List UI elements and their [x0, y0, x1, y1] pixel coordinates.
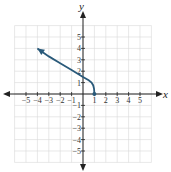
svg-text:−2: −2 — [56, 96, 65, 105]
graph: −5−4−3−2−112345−5−4−3−2−112345 x y — [0, 0, 171, 172]
svg-text:−2: −2 — [72, 113, 81, 122]
x-axis-label: x — [162, 88, 168, 100]
svg-text:1: 1 — [77, 79, 81, 88]
axes — [3, 11, 163, 171]
svg-text:−4: −4 — [33, 96, 42, 105]
svg-text:4: 4 — [77, 44, 81, 53]
start-point — [92, 92, 96, 96]
svg-text:−1: −1 — [72, 101, 81, 110]
svg-text:4: 4 — [127, 96, 131, 105]
svg-text:5: 5 — [138, 96, 142, 105]
svg-text:1: 1 — [92, 96, 96, 105]
svg-text:−5: −5 — [72, 147, 81, 156]
svg-text:5: 5 — [77, 33, 81, 42]
svg-text:3: 3 — [115, 96, 119, 105]
curve-arrow-icon — [37, 48, 45, 55]
svg-text:2: 2 — [104, 96, 108, 105]
y-axis-label: y — [78, 0, 84, 12]
svg-text:−5: −5 — [22, 96, 31, 105]
svg-text:−4: −4 — [72, 136, 81, 145]
svg-text:−3: −3 — [72, 124, 81, 133]
svg-text:−3: −3 — [45, 96, 54, 105]
svg-text:3: 3 — [77, 56, 81, 65]
